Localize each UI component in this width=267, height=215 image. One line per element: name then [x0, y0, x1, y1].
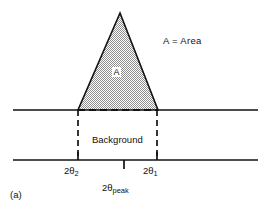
peak-area-label: A: [112, 67, 121, 77]
axis-label-theta1-base: 2θ: [143, 165, 154, 176]
panel-label: (a): [10, 190, 22, 200]
axis-label-theta2-base: 2θ: [64, 165, 75, 176]
legend-area-definition: A = Area: [163, 36, 202, 46]
peak-area-diagram: [0, 0, 267, 215]
axis-label-theta2-subscript: 2: [75, 169, 79, 178]
background-region-label: Background: [92, 135, 143, 145]
axis-label-theta-peak: 2θpeak: [102, 183, 129, 194]
axis-label-theta2: 2θ2: [64, 166, 79, 177]
peak-area-shape: [78, 13, 158, 110]
axis-label-theta-peak-base: 2θ: [102, 182, 113, 193]
axis-label-theta1: 2θ1: [143, 166, 158, 177]
figure-panel-a: A = Area A Background 2θ2 2θ1 2θpeak (a): [0, 0, 267, 215]
axis-label-theta1-subscript: 1: [154, 169, 158, 178]
axis-label-theta-peak-subscript: peak: [113, 186, 129, 195]
